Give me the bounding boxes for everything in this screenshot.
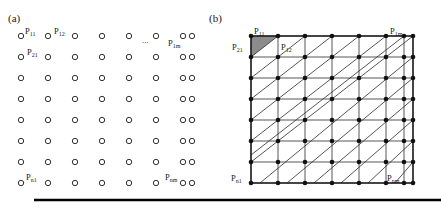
panel-a-point-grid (18, 33, 194, 185)
panel-a-label-p1m: P1m (168, 38, 181, 49)
panel-a: (a) (8, 12, 195, 186)
panel-b-label-p11: P11 (254, 26, 265, 37)
panel-a-label-pnm: Pnm (165, 172, 178, 183)
panel-b: (b) (209, 12, 415, 185)
panel-a-label-p12: P12 (54, 26, 65, 37)
panel-a-label-p11: P11 (25, 26, 36, 37)
panel-b-label-p21: P21 (232, 42, 243, 53)
panel-b-label-pn1: Pn1 (231, 173, 242, 184)
panel-b-label-p1m: P1m (390, 26, 403, 37)
panel-b-label-p12: P12 (281, 42, 292, 53)
figure-root: (a) (0, 0, 441, 211)
panel-a-label-p21: P21 (27, 47, 38, 58)
panel-b-label: (b) (209, 12, 222, 25)
panel-a-label: (a) (8, 12, 21, 25)
panel-a-ellipsis: ... (142, 35, 148, 45)
panel-b-label-pnm: Pnm (387, 173, 400, 184)
panel-a-label-pn1: Pn1 (26, 172, 37, 183)
